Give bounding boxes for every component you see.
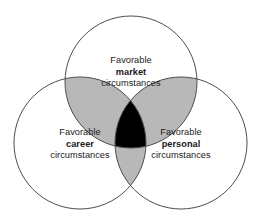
venn-circles-graphic [0, 0, 261, 220]
clipped-caption [6, 212, 156, 220]
venn-diagram: Favorable market circumstances Favorable… [0, 0, 261, 220]
